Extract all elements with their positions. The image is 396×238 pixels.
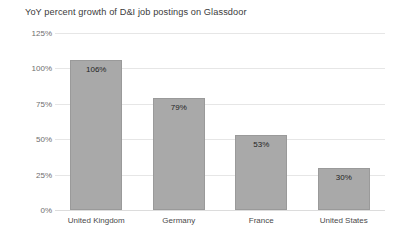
- y-axis-tick-label: 125%: [12, 29, 52, 38]
- bar-value-label: 30%: [318, 173, 370, 182]
- bar-value-label: 79%: [153, 103, 205, 112]
- bar-group: 30%: [318, 33, 370, 210]
- y-axis-tick-label: 50%: [12, 135, 52, 144]
- gridline: [55, 210, 385, 211]
- bar-value-label: 53%: [235, 140, 287, 149]
- y-axis-tick-label: 100%: [12, 64, 52, 73]
- chart-container: YoY percent growth of D&I job postings o…: [0, 0, 396, 238]
- y-axis-tick-label: 75%: [12, 99, 52, 108]
- bar[interactable]: [70, 60, 122, 210]
- y-axis-tick-label: 0%: [12, 206, 52, 215]
- bar-group: 106%: [70, 33, 122, 210]
- chart-title: YoY percent growth of D&I job postings o…: [25, 7, 247, 18]
- y-axis-tick-label: 25%: [12, 170, 52, 179]
- bar-group: 79%: [153, 33, 205, 210]
- bar-group: 53%: [235, 33, 287, 210]
- x-axis-tick-label: United Kingdom: [55, 216, 138, 225]
- bars-layer: 106%79%53%30%: [55, 33, 385, 210]
- x-axis-tick-label: Germany: [138, 216, 221, 225]
- bar[interactable]: [153, 98, 205, 210]
- plot-area: 106%79%53%30%: [55, 33, 385, 210]
- bar-value-label: 106%: [70, 65, 122, 74]
- x-axis-tick-label: France: [220, 216, 303, 225]
- x-axis-tick-label: United States: [303, 216, 386, 225]
